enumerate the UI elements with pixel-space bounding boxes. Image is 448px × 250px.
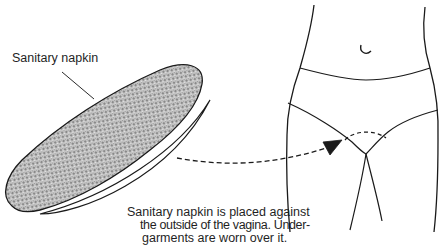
arrowhead-icon bbox=[323, 140, 342, 155]
napkin-label: Sanitary napkin bbox=[12, 51, 98, 65]
inner-thigh-right bbox=[366, 154, 382, 221]
torso-right-contour bbox=[424, 7, 438, 232]
figure-caption: Sanitary napkin is placed against the ou… bbox=[118, 206, 348, 245]
torso-left-contour bbox=[287, 5, 314, 232]
placement-arrow-shaft bbox=[177, 148, 326, 163]
inner-thigh-left bbox=[350, 154, 366, 230]
navel bbox=[361, 45, 371, 53]
caption-line-3: garments are worn over it. bbox=[118, 232, 348, 245]
napkin-label-leader-line bbox=[62, 72, 94, 99]
underwear-right-leg-opening bbox=[366, 110, 438, 154]
underwear-waistband bbox=[300, 68, 430, 80]
napkin-placement-illustration: Sanitary napkin Sanitary napkin is place… bbox=[0, 0, 448, 250]
